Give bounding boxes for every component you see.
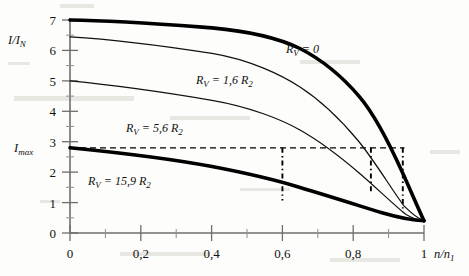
y-tick-label: 0 bbox=[50, 226, 57, 241]
axes-group bbox=[70, 18, 424, 233]
y-tick-label: 4 bbox=[50, 104, 57, 119]
x-tick-label: 0,8 bbox=[345, 246, 361, 261]
y-tick-label: 1 bbox=[50, 196, 57, 211]
y-tick-label: 3 bbox=[50, 135, 57, 150]
y-tick-label: 6 bbox=[50, 43, 57, 58]
y-tick-label: 7 bbox=[50, 13, 57, 28]
y-tick-label: 5 bbox=[50, 74, 57, 89]
curve-label-rv-0: RV = 0 bbox=[285, 42, 319, 58]
x-tick-label: 0,4 bbox=[203, 246, 220, 261]
curve-rv-1-6 bbox=[70, 37, 424, 221]
x-axis-label: n/n1 bbox=[434, 247, 454, 263]
y-axis-label: I/IN bbox=[7, 33, 27, 49]
x-tick-label: 0,6 bbox=[274, 246, 291, 261]
drop-lines-group bbox=[282, 148, 402, 213]
x-tick-label: 1 bbox=[421, 246, 428, 261]
imax-label: Imax bbox=[13, 141, 33, 157]
scan-noise bbox=[8, 4, 460, 262]
y-tick-labels: 0 1 2 3 4 5 6 7 bbox=[50, 13, 57, 241]
curve-label-rv-15-9: RV = 15,9 R2 bbox=[87, 174, 151, 190]
curve-label-rv-5-6: RV = 5,6 R2 bbox=[125, 121, 183, 137]
figure-container: 0 1 2 3 4 5 6 7 0 0,2 bbox=[0, 0, 469, 276]
x-tick-label: 0 bbox=[67, 246, 74, 261]
y-tick-label: 2 bbox=[50, 165, 57, 180]
x-tick-label: 0,2 bbox=[133, 246, 149, 261]
chart-canvas: 0 1 2 3 4 5 6 7 0 0,2 bbox=[0, 0, 469, 276]
curve-label-rv-1-6: RV = 1,6 R2 bbox=[195, 73, 253, 89]
